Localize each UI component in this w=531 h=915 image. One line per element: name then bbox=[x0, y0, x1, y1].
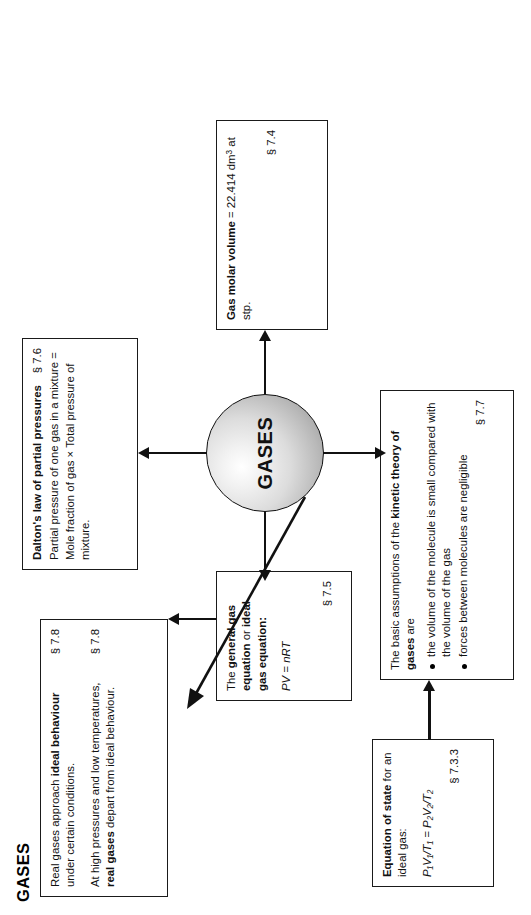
real-gases-p2-pre: At high pressures and low temperatures, bbox=[89, 682, 101, 887]
arrowhead-kinetic-theory bbox=[375, 448, 386, 460]
real-gases-paragraph-1: § 7.8 Real gases approach ideal behaviou… bbox=[48, 629, 79, 887]
kinetic-section: § 7.7 bbox=[473, 400, 488, 670]
diagram-canvas: GASES § 7.8 Real gases bbox=[0, 0, 531, 915]
real-gases-p1-pre: Real gases approach bbox=[49, 776, 61, 887]
connector-to-kinetic-theory bbox=[322, 452, 378, 455]
connector-to-equation-of-state bbox=[175, 475, 325, 735]
node-molar-volume: Gas molar volume = 22.414 dm3 at stp. § … bbox=[216, 120, 328, 330]
center-node-gases: GASES bbox=[206, 394, 324, 512]
list-item: the volume of the molecule is small comp… bbox=[424, 400, 455, 670]
real-gases-section-1: § 7.8 bbox=[48, 629, 63, 654]
page-title: GASES bbox=[14, 843, 33, 902]
eos-heading: Equation of state for an ideal gas: bbox=[380, 749, 411, 877]
node-equation-of-state: Equation of state for an ideal gas: P₁V₁… bbox=[372, 739, 494, 887]
eos-heading-bold: Equation of state bbox=[381, 785, 393, 877]
center-node-label: GASES bbox=[254, 416, 277, 489]
kinetic-intro-post: are bbox=[404, 618, 416, 638]
connector-eos-to-kinetic-theory bbox=[428, 688, 431, 740]
arrowhead-molar-volume bbox=[259, 330, 271, 341]
real-gases-p2-bold: real gases bbox=[104, 831, 116, 887]
real-gases-section-2: § 7.8 bbox=[88, 629, 103, 654]
molar-volume-section: § 7.4 bbox=[264, 130, 279, 320]
arrowhead-dalton bbox=[138, 448, 149, 460]
molar-volume-value: = 22.414 dm bbox=[225, 154, 237, 221]
real-gases-p1-bold: ideal behaviour bbox=[49, 693, 61, 777]
kinetic-bullet-list: the volume of the molecule is small comp… bbox=[424, 400, 472, 670]
eos-formula: P₁V₁/T₁ = P₂V₂/T₂ bbox=[420, 749, 435, 877]
node-real-gases: § 7.8 Real gases approach ideal behaviou… bbox=[40, 619, 168, 897]
node-dalton-law: § 7.6 Dalton's law of partial pressures … bbox=[22, 338, 138, 570]
arrowhead-eos-to-kinetic-theory bbox=[423, 680, 435, 691]
dalton-section: § 7.6 bbox=[30, 348, 45, 373]
dalton-body: Partial pressure of one gas in a mixture… bbox=[47, 348, 93, 560]
molar-volume-sup: 3 bbox=[225, 150, 234, 155]
connector-to-dalton bbox=[148, 452, 208, 455]
kinetic-intro-pre: The basic assumptions of the bbox=[389, 519, 401, 670]
connector-gge-to-real-gases bbox=[178, 618, 216, 621]
molar-volume-bold: Gas molar volume bbox=[225, 221, 237, 320]
arrowhead-general-gas-equation bbox=[259, 570, 271, 581]
dalton-heading: Dalton's law of partial pressures bbox=[31, 385, 43, 560]
kinetic-intro: The basic assumptions of the kinetic the… bbox=[388, 400, 419, 670]
real-gases-p2-post: depart from ideal behaviour. bbox=[104, 687, 116, 831]
real-gases-p1-post: under certain conditions. bbox=[64, 763, 76, 887]
eos-section: § 7.3.3 bbox=[447, 749, 462, 877]
molar-volume-text: Gas molar volume = 22.414 dm3 at stp. bbox=[224, 130, 255, 320]
node-kinetic-theory: The basic assumptions of the kinetic the… bbox=[380, 390, 514, 680]
real-gases-paragraph-2: § 7.8 At high pressures and low temperat… bbox=[88, 629, 119, 887]
list-item: forces between molecules are negligible bbox=[456, 400, 471, 670]
dalton-heading-row: § 7.6 Dalton's law of partial pressures bbox=[30, 348, 45, 560]
connector-to-molar-volume bbox=[264, 338, 267, 394]
arrowhead-real-gases bbox=[168, 614, 179, 626]
diagram-page: GASES § 7.8 Real gases bbox=[0, 0, 531, 915]
